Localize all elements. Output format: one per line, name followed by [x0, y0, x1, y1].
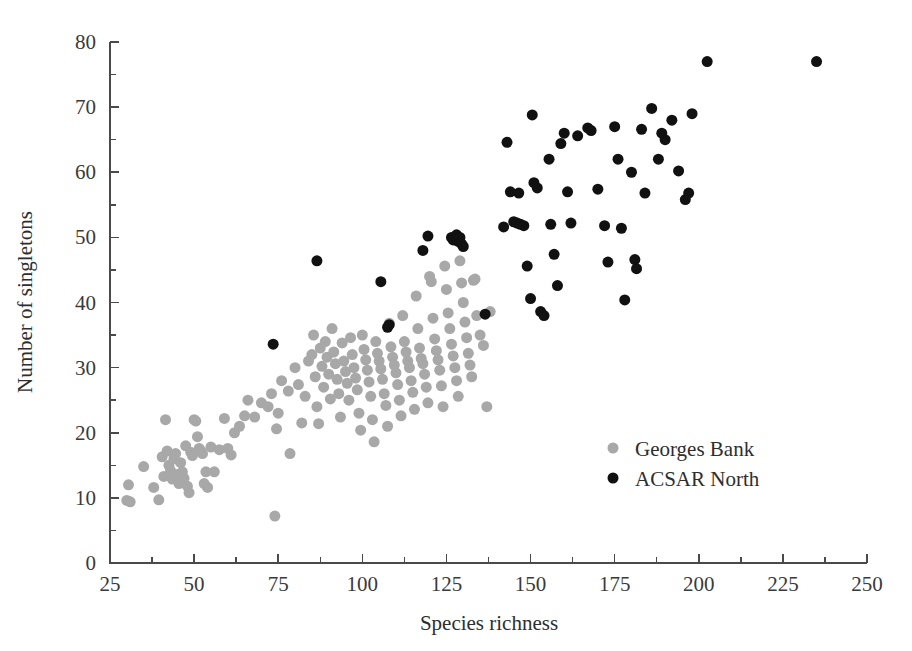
data-point — [613, 154, 624, 165]
data-point — [412, 323, 423, 334]
data-point — [539, 310, 550, 321]
data-point — [619, 294, 630, 305]
data-point — [296, 417, 307, 428]
data-point — [190, 416, 201, 427]
data-point — [636, 124, 647, 135]
data-point — [513, 188, 524, 199]
data-point — [273, 408, 284, 419]
data-point — [353, 408, 364, 419]
data-point — [364, 376, 375, 387]
data-point — [409, 404, 420, 415]
data-point — [461, 332, 472, 343]
data-point — [532, 182, 543, 193]
data-point — [285, 448, 296, 459]
data-point — [448, 350, 459, 361]
data-point — [465, 360, 476, 371]
data-point — [392, 379, 403, 390]
x-tick-label: 125 — [431, 572, 463, 596]
data-point — [687, 108, 698, 119]
data-point — [646, 103, 657, 114]
data-point — [446, 339, 457, 350]
data-point — [226, 449, 237, 460]
data-point — [417, 358, 428, 369]
data-point — [660, 134, 671, 145]
data-point — [362, 365, 373, 376]
data-point — [436, 380, 447, 391]
x-axis-label: Species richness — [420, 611, 558, 635]
data-point — [453, 391, 464, 402]
data-point — [396, 410, 407, 421]
data-point — [138, 461, 149, 472]
data-point — [271, 423, 282, 434]
data-point — [399, 336, 410, 347]
data-point — [631, 263, 642, 274]
data-point — [401, 347, 412, 358]
x-tick-label: 75 — [268, 572, 289, 596]
data-point — [148, 482, 159, 493]
data-point — [192, 431, 203, 442]
data-point — [673, 165, 684, 176]
data-point — [332, 374, 343, 385]
data-point — [380, 400, 391, 411]
plot-canvas: 0102030405060708025507510012515017520022… — [0, 0, 912, 651]
data-point — [184, 487, 195, 498]
data-point — [357, 330, 368, 341]
data-point — [478, 340, 489, 351]
x-tick-label: 100 — [347, 572, 379, 596]
data-point — [602, 257, 613, 268]
data-point — [360, 354, 371, 365]
data-point — [269, 511, 280, 522]
data-point — [367, 414, 378, 425]
data-point — [434, 365, 445, 376]
data-point — [592, 184, 603, 195]
data-point — [586, 125, 597, 136]
data-point — [475, 330, 486, 341]
data-point — [153, 494, 164, 505]
data-point — [438, 401, 449, 412]
data-point — [449, 362, 460, 373]
data-point — [219, 413, 230, 424]
data-point — [175, 457, 186, 468]
y-tick-label: 20 — [75, 421, 96, 445]
data-point — [359, 344, 370, 355]
data-point — [502, 137, 513, 148]
data-point — [328, 347, 339, 358]
data-point — [419, 369, 430, 380]
data-point — [443, 307, 454, 318]
data-point — [375, 276, 386, 287]
data-point — [397, 310, 408, 321]
data-point — [458, 297, 469, 308]
data-point — [370, 336, 381, 347]
data-point — [544, 154, 555, 165]
data-point — [123, 479, 134, 490]
data-point — [369, 436, 380, 447]
data-point — [335, 412, 346, 423]
data-point — [407, 387, 418, 398]
scatter-plot-figure: 0102030405060708025507510012515017520022… — [0, 0, 912, 651]
data-point — [293, 379, 304, 390]
data-point — [411, 290, 422, 301]
x-tick-label: 175 — [599, 572, 631, 596]
data-point — [234, 421, 245, 432]
data-point — [327, 323, 338, 334]
data-point — [518, 220, 529, 231]
data-point — [404, 362, 415, 373]
data-point — [562, 186, 573, 197]
figure-background — [0, 0, 912, 651]
data-point — [263, 401, 274, 412]
data-point — [470, 274, 481, 285]
data-point — [549, 249, 560, 260]
data-point — [616, 223, 627, 234]
data-point — [318, 382, 329, 393]
data-point — [421, 382, 432, 393]
data-point — [350, 373, 361, 384]
data-point — [466, 371, 477, 382]
data-point — [125, 496, 136, 507]
x-tick-label: 200 — [683, 572, 715, 596]
data-point — [626, 167, 637, 178]
data-point — [311, 401, 322, 412]
data-point — [426, 276, 437, 287]
data-point — [653, 154, 664, 165]
data-point — [431, 345, 442, 356]
data-point — [276, 375, 287, 386]
